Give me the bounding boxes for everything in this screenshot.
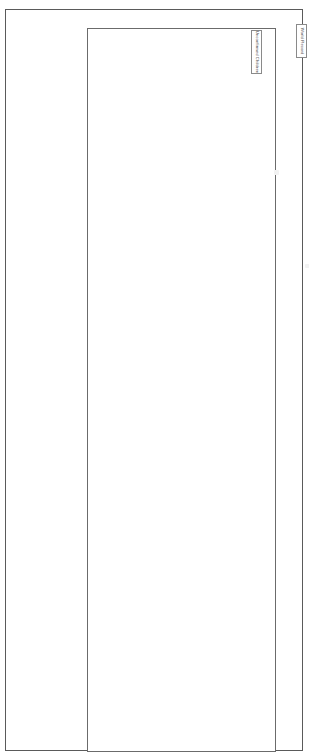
vertical-label-world-record-text: World Record	[299, 28, 303, 55]
vertical-label-unconfirmed-children[interactable]: Unconfirmed Children	[251, 30, 262, 74]
vertical-label-world-record[interactable]: World Record	[296, 24, 307, 58]
content-area[interactable]	[87, 28, 276, 752]
lower-speck-mark	[305, 264, 309, 268]
vertical-label-unconfirmed-children-text: Unconfirmed Children	[254, 31, 258, 74]
page-frame: Unconfirmed Children World Record	[5, 9, 303, 751]
page-canvas: Unconfirmed Children World Record	[0, 0, 309, 756]
upper-speck-mark	[274, 170, 279, 175]
